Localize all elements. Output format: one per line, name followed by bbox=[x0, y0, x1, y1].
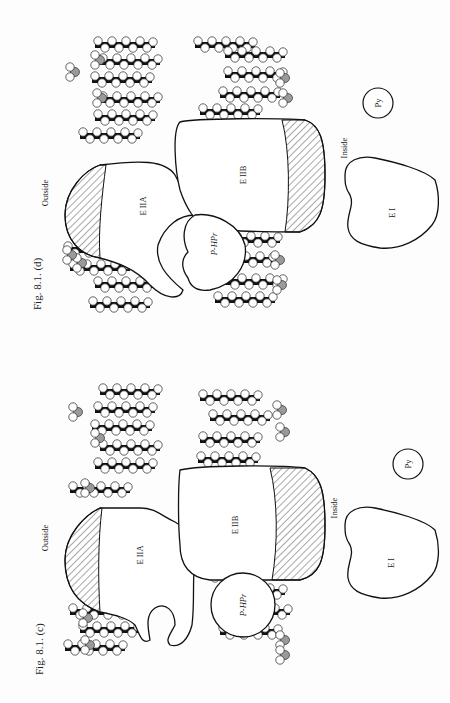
label-py-d: Py bbox=[373, 98, 383, 108]
label-outside-c: Outside bbox=[40, 525, 50, 552]
e2b-hatched-region-c bbox=[270, 468, 325, 580]
label-e2a-c: E IIA bbox=[135, 545, 145, 565]
label-e2b-c: E IIB bbox=[230, 515, 240, 534]
scanned-page: Fig. 8.1. (d) Outside E IIA E IIB P-HPr … bbox=[0, 0, 450, 703]
caption-d: Fig. 8.1. (d) bbox=[31, 257, 44, 310]
label-e1-d: E I bbox=[387, 208, 397, 218]
protein-e1-c bbox=[345, 507, 438, 598]
label-phpr-d: P-HPr bbox=[209, 232, 219, 256]
label-py-c: Py bbox=[403, 459, 413, 469]
label-inside-c: Inside bbox=[329, 497, 339, 518]
label-phpr-c: P-HPr bbox=[238, 593, 248, 617]
label-e2a-d: E IIA bbox=[138, 196, 148, 216]
e2a-hatched-region-c bbox=[65, 508, 102, 612]
caption-c: Fig. 8.1. (c) bbox=[33, 623, 46, 675]
figure-8-1-d: Fig. 8.1. (d) Outside E IIA E IIB P-HPr … bbox=[31, 37, 438, 312]
figure-caption-d: Fig. 8.1. (d) bbox=[31, 257, 44, 310]
label-e1-c: E I bbox=[386, 558, 396, 568]
figure-caption-c: Fig. 8.1. (c) bbox=[33, 623, 46, 675]
e2b-hatched-region-d bbox=[282, 120, 325, 232]
label-e2b-d: E IIB bbox=[238, 165, 248, 184]
figure-8-1-c: Fig. 8.1. (c) Outside E IIA E IIB P-HPr … bbox=[33, 384, 438, 675]
protein-e1-d bbox=[345, 157, 438, 248]
figure-canvas: Fig. 8.1. (d) Outside E IIA E IIB P-HPr … bbox=[0, 0, 450, 703]
label-inside-d: Inside bbox=[339, 137, 349, 158]
label-outside-d: Outside bbox=[40, 180, 50, 207]
